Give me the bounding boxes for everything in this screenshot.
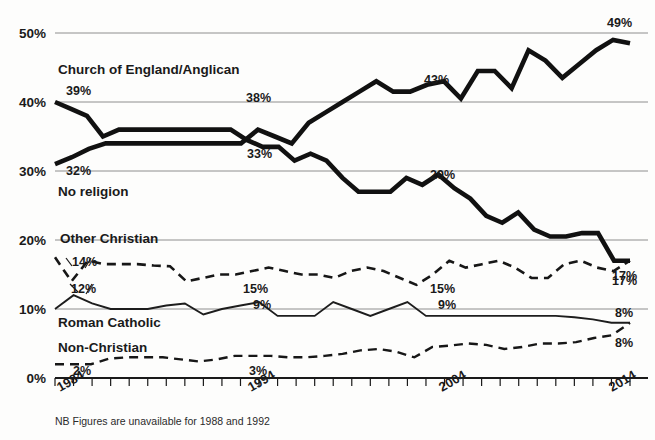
annotation-catholic-8: 8% xyxy=(615,306,633,320)
y-tick-20: 20% xyxy=(19,233,46,248)
annotation-nonchr-3: 3% xyxy=(249,364,267,378)
annotation-anglican-33: 33% xyxy=(247,147,272,161)
y-tick-0: 0% xyxy=(26,371,46,386)
chart-footnote: NB Figures are unavailable for 1988 and … xyxy=(55,415,270,427)
annotation-anglican-39: 39% xyxy=(66,84,91,98)
annotation-anglican-29: 29% xyxy=(430,168,455,182)
annotation-noreligion-38: 38% xyxy=(246,91,271,105)
annotation-nonchr-8: 8% xyxy=(615,336,633,350)
y-tick-40: 40% xyxy=(19,95,46,110)
series-label-anglican: Church of England/Anglican xyxy=(58,62,240,77)
annotation-noreligion-32: 32% xyxy=(66,164,91,178)
y-tick-10: 10% xyxy=(19,302,46,317)
series-label-no-religion: No religion xyxy=(58,184,129,199)
y-tick-30: 30% xyxy=(19,164,46,179)
series-label-roman-catholic: Roman Catholic xyxy=(58,315,161,330)
annotation-nonchr-2: 2% xyxy=(73,364,91,378)
annotation-noreligion-49: 49% xyxy=(607,16,632,30)
x-axis-ticks xyxy=(55,378,630,386)
religion-trend-chart: 50% 40% 30% 20% 10% 0% 1984 1994 2004 20… xyxy=(0,0,655,440)
annotation-otherchr-15: 15% xyxy=(243,282,268,296)
x-tick-2014: 2014 xyxy=(606,367,639,395)
annotation-otherchr-15b: 15% xyxy=(430,282,455,296)
series-line-other-christian xyxy=(55,257,630,285)
annotation-catholic-12: 12% xyxy=(71,282,96,296)
series-label-other-christian: Other Christian xyxy=(60,231,158,246)
x-tick-2004: 2004 xyxy=(436,367,469,395)
chart-canvas: 50% 40% 30% 20% 10% 0% 1984 1994 2004 20… xyxy=(0,0,655,440)
annotation-catholic-9b: 9% xyxy=(438,298,456,312)
y-tick-50: 50% xyxy=(19,26,46,41)
annotation-noreligion-43: 43% xyxy=(424,73,449,87)
annotation-otherchr-14: 14% xyxy=(72,255,97,269)
series-label-non-christian: Non-Christian xyxy=(58,340,147,355)
y-axis-labels: 50% 40% 30% 20% 10% 0% xyxy=(19,26,46,386)
annotation-catholic-9: 9% xyxy=(253,298,271,312)
x-axis-labels: 1984 1994 2004 2014 xyxy=(54,367,639,395)
annotation-otherchr-17: 17% xyxy=(612,269,637,283)
